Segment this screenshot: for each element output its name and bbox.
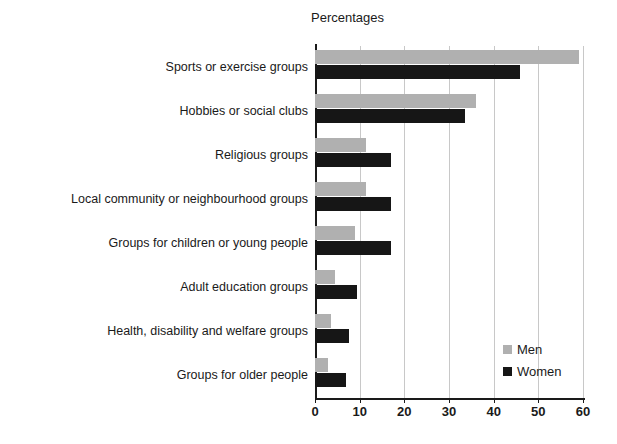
bar-group [315,222,583,266]
x-tick-label: 10 [352,404,366,419]
chart-title: Percentages [311,10,384,25]
legend-item[interactable]: Men [503,338,562,360]
category-label: Adult education groups [8,280,308,294]
x-tick-mark [315,398,316,403]
x-tick-mark [360,398,361,403]
category-label: Groups for older people [8,368,308,382]
bar-men [315,314,331,328]
chart-legend: MenWomen [503,338,562,382]
legend-item[interactable]: Women [503,360,562,382]
x-tick-label: 0 [311,404,318,419]
bar-women [315,285,357,299]
category-label: Local community or neighbourhood groups [8,192,308,206]
bar-men [315,50,579,64]
chart-page: Percentages Sports or exercise groupsHob… [0,0,617,444]
bar-group [315,46,583,90]
x-tick-mark [494,398,495,403]
x-tick-label: 20 [397,404,411,419]
category-axis-labels: Sports or exercise groupsHobbies or soci… [5,46,308,398]
bar-men [315,94,476,108]
legend-label: Men [517,342,542,357]
category-label: Hobbies or social clubs [8,104,308,118]
x-tick-label: 40 [486,404,500,419]
x-tick-label: 60 [576,404,590,419]
bar-group [315,134,583,178]
category-label: Groups for children or young people [8,236,308,250]
x-tick-mark [538,398,539,403]
bar-men [315,358,328,372]
legend-swatch-icon [503,345,512,354]
x-tick-mark [404,398,405,403]
bar-women [315,153,391,167]
bar-women [315,197,391,211]
x-tick-mark [449,398,450,403]
bar-women [315,241,391,255]
category-label: Sports or exercise groups [8,60,308,74]
category-label: Religious groups [8,148,308,162]
gridline [583,46,584,398]
bar-group [315,90,583,134]
bar-men [315,270,335,284]
x-tick-mark [583,398,584,403]
bar-men [315,138,366,152]
bar-men [315,226,355,240]
bar-group [315,266,583,310]
legend-swatch-icon [503,367,512,376]
x-axis-tick-labels: 0102030405060 [315,404,583,424]
bar-women [315,373,346,387]
bar-women [315,329,349,343]
x-tick-label: 50 [531,404,545,419]
category-label: Health, disability and welfare groups [8,324,308,338]
bar-group [315,178,583,222]
legend-label: Women [517,364,562,379]
x-tick-label: 30 [442,404,456,419]
x-axis-line [315,398,585,400]
bar-men [315,182,366,196]
bar-women [315,109,465,123]
bar-women [315,65,520,79]
